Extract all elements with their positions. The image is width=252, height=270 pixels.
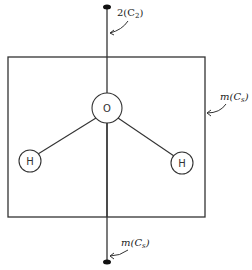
atom-hydrogen-right: H bbox=[171, 152, 193, 174]
svg-text:m(Cs): m(Cs) bbox=[220, 91, 249, 104]
label-mirror-plane-bottom: m(Cs) bbox=[110, 237, 150, 259]
atom-label-h-left: H bbox=[26, 156, 34, 167]
label-mirror-plane-right: m(Cs) bbox=[207, 91, 249, 116]
bond-right bbox=[118, 118, 174, 156]
axis-bottom-endpoint-icon bbox=[103, 260, 111, 265]
bond-left bbox=[38, 118, 96, 154]
arrow-mirror-right bbox=[207, 104, 226, 113]
atom-hydrogen-left: H bbox=[19, 150, 41, 172]
label-c2-axis: 2(C2) bbox=[110, 7, 143, 35]
svg-text:2(C2): 2(C2) bbox=[117, 7, 143, 20]
atom-label-h-right: H bbox=[178, 158, 186, 169]
water-symmetry-diagram: O H H 2(C2) m(Cs) m(Cs) bbox=[0, 0, 252, 270]
axis-top-endpoint-icon bbox=[103, 5, 111, 10]
arrow-mirror-bottom bbox=[110, 250, 128, 256]
atom-label-o: O bbox=[103, 103, 111, 114]
svg-text:m(Cs): m(Cs) bbox=[121, 237, 150, 250]
atom-oxygen: O bbox=[92, 93, 122, 123]
